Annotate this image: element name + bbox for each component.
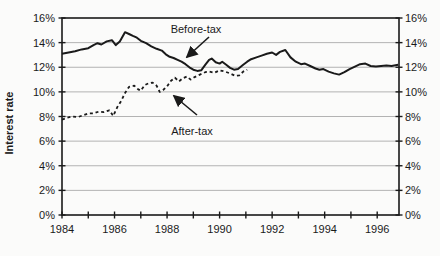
y-tick-label-right: 16%	[405, 12, 427, 24]
y-tick-label-left: 2%	[39, 184, 55, 196]
y-tick-label-right: 10%	[405, 86, 427, 98]
before-tax-label: Before-tax	[171, 23, 222, 35]
before-tax-arrow	[187, 37, 209, 57]
data-series	[62, 32, 398, 119]
y-tick-label-right: 6%	[405, 135, 421, 147]
y-tick-label-right: 4%	[405, 160, 421, 172]
x-tick-label: 1996	[365, 223, 389, 235]
y-tick-label-right: 0%	[405, 209, 421, 221]
y-tick-label-right: 8%	[405, 111, 421, 123]
x-tick-label: 1988	[155, 223, 179, 235]
figure: 0%0%2%2%4%4%6%6%8%8%10%10%12%12%14%14%16…	[0, 0, 440, 256]
y-tick-label-left: 14%	[33, 37, 55, 49]
axis-ticks	[59, 18, 403, 219]
interest-rate-chart: 0%0%2%2%4%4%6%6%8%8%10%10%12%12%14%14%16…	[0, 0, 440, 256]
x-tick-label: 1986	[102, 223, 126, 235]
y-tick-label-left: 10%	[33, 86, 55, 98]
y-tick-label-right: 14%	[405, 37, 427, 49]
after-tax-label: After-tax	[171, 125, 213, 137]
y-tick-label-left: 0%	[39, 209, 55, 221]
series-annotations: Before-taxAfter-tax	[171, 23, 222, 137]
y-tick-label-left: 16%	[33, 12, 55, 24]
y-tick-label-left: 6%	[39, 135, 55, 147]
x-tick-label: 1990	[207, 223, 231, 235]
x-tick-label: 1984	[50, 223, 74, 235]
y-axis-title: Interest rate	[3, 92, 15, 155]
y-tick-label-left: 4%	[39, 160, 55, 172]
y-tick-label-right: 2%	[405, 184, 421, 196]
y-tick-label-right: 12%	[405, 61, 427, 73]
after-tax-line	[62, 70, 247, 120]
after-tax-arrow	[174, 96, 197, 115]
x-tick-label: 1994	[312, 223, 336, 235]
y-tick-label-left: 8%	[39, 111, 55, 123]
x-tick-label: 1992	[260, 223, 284, 235]
y-tick-label-left: 12%	[33, 61, 55, 73]
gridlines	[62, 43, 399, 191]
before-tax-line	[62, 32, 398, 74]
